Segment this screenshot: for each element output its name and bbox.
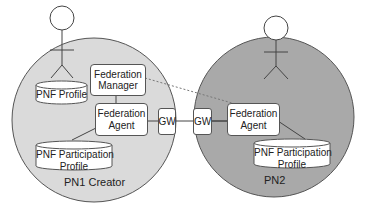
federation-agent-pn2-line1: Federation bbox=[230, 108, 278, 120]
zone-pn2-label: PN2 bbox=[264, 174, 285, 186]
federation-manager-node: Federation Manager bbox=[90, 64, 146, 96]
federation-diagram bbox=[0, 0, 369, 207]
gw-pn1-label: GW bbox=[158, 116, 175, 128]
pnf-participation-profile-pn2-line1: PNF Participation bbox=[254, 147, 330, 159]
zone-pn1-label: PN1 Creator bbox=[64, 176, 125, 188]
federation-agent-pn2-line2: Agent bbox=[230, 120, 278, 132]
federation-manager-line2: Manager bbox=[94, 80, 142, 92]
pnf-participation-profile-pn1-label: PNF Participation Profile bbox=[36, 149, 112, 172]
federation-agent-pn1-line2: Agent bbox=[98, 120, 146, 132]
federation-agent-pn2-node: Federation Agent bbox=[227, 103, 280, 136]
pnf-participation-profile-pn1-line1: PNF Participation bbox=[36, 149, 112, 161]
gw-pn1-node: GW bbox=[158, 108, 176, 135]
pnf-participation-profile-pn1-line2: Profile bbox=[36, 161, 112, 173]
federation-agent-pn1-line1: Federation bbox=[98, 108, 146, 120]
pnf-participation-profile-pn2-line2: Profile bbox=[254, 159, 330, 171]
pnf-profile-label: PNF Profile bbox=[36, 89, 87, 101]
federation-agent-pn1-node: Federation Agent bbox=[95, 103, 148, 136]
pnf-participation-profile-pn2-label: PNF Participation Profile bbox=[254, 147, 330, 170]
gw-pn2-node: GW bbox=[193, 108, 212, 135]
federation-manager-line1: Federation bbox=[94, 69, 142, 81]
gw-pn2-label: GW bbox=[194, 116, 211, 128]
